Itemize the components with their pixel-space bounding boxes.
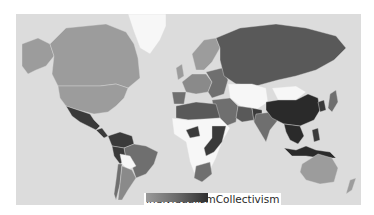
region-japan [328, 90, 338, 112]
region-north-africa [176, 102, 220, 120]
region-alaska [22, 38, 54, 74]
region-central-america [96, 128, 108, 138]
region-new-zealand [346, 178, 356, 194]
region-russia [216, 24, 346, 86]
map-canvas [16, 14, 361, 205]
region-australia [300, 154, 338, 184]
legend-high-label: Collectivism [216, 193, 280, 205]
region-philippines [312, 128, 320, 142]
region-iran [236, 106, 254, 122]
region-iberia [172, 92, 186, 104]
region-southeast-asia [284, 124, 304, 144]
legend-gradient-bar [146, 193, 208, 202]
map-legend: Individualism Collectivism [144, 193, 281, 205]
world-map: Individualism Collectivism [16, 14, 361, 205]
legend-gradient-rect [146, 193, 208, 202]
region-scandinavia [192, 38, 220, 70]
region-canada [50, 24, 140, 88]
region-uk [176, 64, 184, 80]
region-indonesia [284, 146, 336, 158]
region-western-europe [182, 74, 212, 94]
